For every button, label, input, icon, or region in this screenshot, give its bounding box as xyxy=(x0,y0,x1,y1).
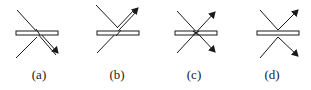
caption-d: (d) xyxy=(233,68,311,82)
lower-reflected-ray xyxy=(278,37,298,56)
transmitted-ray-line1 xyxy=(37,33,56,55)
transmitted-ray-line1 xyxy=(117,9,135,28)
lower-incident-ray xyxy=(260,37,278,58)
incident-ray xyxy=(17,10,38,33)
ray-diagram-figure: (a) (b) xyxy=(0,0,311,90)
panel-b: (b) xyxy=(78,0,156,90)
upper-reflected-ray xyxy=(278,10,298,30)
caption-c: (c) xyxy=(155,68,233,82)
lower-ray xyxy=(16,37,37,58)
caption-a: (a) xyxy=(0,68,78,82)
plate xyxy=(257,31,299,35)
panel-d: (d) xyxy=(233,0,311,90)
transmitted-ray-line2 xyxy=(40,33,58,53)
panel-a: (a) xyxy=(0,0,78,90)
panel-a-diagram xyxy=(0,0,78,62)
plate xyxy=(16,31,58,35)
transmitted-ray-line2 xyxy=(120,11,137,29)
panel-c: (c) xyxy=(155,0,233,90)
caption-b: (b) xyxy=(78,68,156,82)
upper-ray xyxy=(96,5,118,28)
upper-incident-ray xyxy=(260,10,278,30)
panel-c-diagram xyxy=(155,0,233,62)
panel-d-diagram xyxy=(233,0,311,62)
panel-b-diagram xyxy=(78,0,156,62)
